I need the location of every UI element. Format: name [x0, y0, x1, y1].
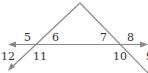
angle-label-9: 9 — [146, 50, 148, 63]
angle-label-6: 6 — [52, 31, 59, 44]
right-arrow-icon — [140, 42, 148, 48]
angle-label-10: 10 — [113, 50, 127, 63]
angle-diagram: 5 6 7 8 12 11 10 9 — [0, 0, 148, 73]
angle-label-12: 12 — [1, 50, 15, 63]
bottom-left-arrow-icon — [8, 63, 15, 71]
angle-label-11: 11 — [33, 50, 47, 63]
angle-label-8: 8 — [127, 31, 134, 44]
angle-label-5: 5 — [24, 31, 31, 44]
left-arrow-icon — [8, 42, 16, 48]
angle-label-7: 7 — [100, 31, 107, 44]
